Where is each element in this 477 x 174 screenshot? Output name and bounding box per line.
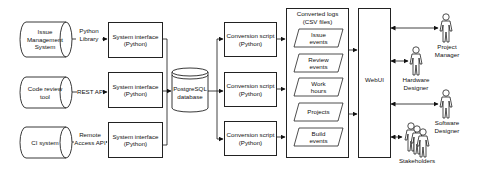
file-line: Build — [309, 130, 327, 138]
file-line: events — [309, 137, 327, 145]
connector-label-remote-access-api: Remote Access API — [74, 131, 106, 146]
box-line: System interface — [112, 83, 158, 91]
actor-label-stakeholders: Stakeholders — [397, 157, 437, 165]
source-label-ci-system: CI system — [20, 139, 70, 147]
actor-icon-stakeholders — [405, 123, 429, 157]
source-line: System — [20, 43, 70, 51]
source-line: Management — [20, 36, 70, 44]
box-line: Conversion script — [227, 82, 275, 90]
source-line: tool — [20, 93, 70, 101]
actor-line: Stakeholders — [397, 157, 437, 165]
log-file-build-events: Buildevents — [296, 128, 341, 146]
connector-line: Remote — [74, 131, 106, 139]
connector-line: Python — [76, 27, 102, 35]
box-line: System interface — [112, 33, 158, 41]
file-line: hours — [311, 87, 326, 95]
conversion-script-box-1: Conversion script(Python) — [224, 22, 277, 57]
log-file-review-events: Reviewevents — [296, 54, 341, 72]
connector-line: Access API — [74, 139, 106, 147]
connector-label-rest-api: REST API — [77, 88, 103, 96]
connector-line: Library — [76, 35, 102, 43]
box-line: Conversion script — [227, 131, 275, 139]
database-line: database — [172, 93, 208, 101]
log-file-issue-events: Issueevents — [296, 29, 341, 47]
actor-line: Designer — [399, 84, 433, 92]
actor-icon-hardware-designer — [410, 47, 422, 75]
source-line: CI system — [20, 139, 70, 147]
log-file-work-hours: Workhours — [296, 78, 341, 96]
actor-line: Hardware — [399, 76, 433, 84]
box-line: (Python) — [227, 90, 275, 98]
file-line: Projects — [307, 108, 329, 116]
actor-label-software-designer: Software Designer — [430, 119, 464, 134]
actor-label-hardware-designer: Hardware Designer — [399, 76, 433, 91]
database-label: PostgreSQL database — [172, 85, 208, 100]
connector-label-python-library: Python Library — [76, 27, 102, 42]
database-line: PostgreSQL — [172, 85, 208, 93]
box-line: (Python) — [112, 40, 158, 48]
box-line: Conversion script — [227, 32, 275, 40]
log-file-projects: Projects — [296, 103, 341, 121]
actor-icon-project-manager — [440, 14, 452, 42]
system-interface-box-3: System interface(Python) — [108, 122, 163, 158]
file-line: Work — [311, 80, 326, 88]
file-line: Issue — [309, 31, 327, 39]
box-line: System interface — [112, 133, 158, 141]
conversion-script-box-2: Conversion script(Python) — [224, 72, 277, 107]
source-label-issue-management: Issue Management System — [20, 28, 70, 51]
actor-icon-software-designer — [440, 90, 452, 118]
box-line: (Python) — [112, 90, 158, 98]
system-interface-box-1: System interface(Python) — [108, 22, 163, 58]
actor-line: Software — [430, 119, 464, 127]
title-line: Converted logs — [286, 10, 349, 18]
box-line: (Python) — [227, 139, 275, 147]
title-line: (CSV files) — [286, 18, 349, 26]
actor-line: Designer — [430, 127, 464, 135]
converted-logs-title: Converted logs (CSV files) — [286, 10, 349, 25]
system-interface-box-2: System interface(Python) — [108, 72, 163, 108]
actor-label-project-manager: Project Manager — [430, 43, 464, 58]
conversion-script-box-3: Conversion script(Python) — [224, 121, 277, 156]
file-line: events — [308, 63, 328, 71]
file-line: Review — [308, 56, 328, 64]
actor-line: Project — [430, 43, 464, 51]
actor-line: Manager — [430, 51, 464, 59]
box-line: (Python) — [112, 140, 158, 148]
source-line: Issue — [20, 28, 70, 36]
file-line: events — [309, 38, 327, 46]
box-line: (Python) — [227, 40, 275, 48]
source-line: Code review — [20, 85, 70, 93]
connector-line: REST API — [77, 88, 103, 96]
webui-label: WebUI — [358, 76, 391, 84]
source-label-code-review: Code review tool — [20, 85, 70, 100]
